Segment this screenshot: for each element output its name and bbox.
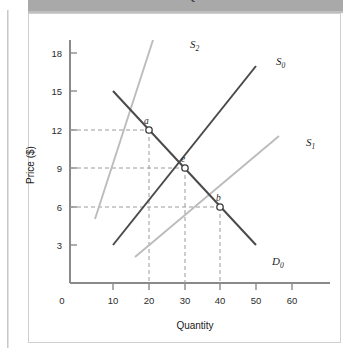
figure-frame [28,13,341,343]
figure-caption-text: PRICE AND QUANTITY [28,0,343,2]
page-canvas: PRICE AND QUANTITY 3 [0,0,356,356]
page-left-gutter [0,10,8,348]
page-left-gutter-edge [8,10,9,348]
